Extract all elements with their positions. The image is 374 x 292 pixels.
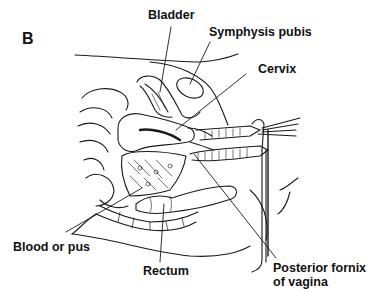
anatomical-diagram: B: [0, 0, 374, 292]
label-rectum: Rectum: [143, 264, 189, 278]
label-posterior-fornix-line1: Posterior fornix: [273, 261, 366, 275]
label-bladder: Bladder: [148, 8, 195, 22]
label-posterior-fornix-line2: of vagina: [273, 275, 366, 289]
label-symphysis-pubis: Symphysis pubis: [209, 25, 312, 39]
label-blood-or-pus: Blood or pus: [13, 240, 90, 254]
label-posterior-fornix: Posterior fornix of vagina: [273, 261, 366, 289]
label-cervix: Cervix: [258, 62, 296, 76]
